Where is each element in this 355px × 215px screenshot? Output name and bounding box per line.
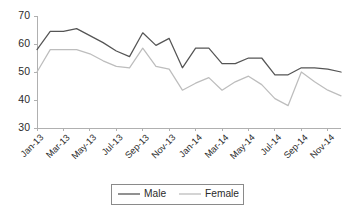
series-line-female (37, 48, 341, 105)
series-lines (37, 29, 341, 106)
y-tick-label: 70 (18, 9, 30, 21)
y-tick-label: 60 (18, 37, 30, 49)
y-tick-label: 40 (18, 93, 30, 105)
y-tick-label: 50 (18, 65, 30, 77)
x-tick-label: May-13 (70, 132, 99, 161)
x-tick-label: Sep-14 (282, 132, 310, 160)
y-tick-label: 30 (18, 121, 30, 133)
x-tick-labels: Jan-13Mar-13May-13Jul-13Sep-13Nov-13Jan-… (18, 132, 336, 161)
x-tick-label: Sep-13 (123, 132, 151, 160)
x-tick-label: Mar-13 (44, 132, 72, 160)
x-axis-group: Jan-13Mar-13May-13Jul-13Sep-13Nov-13Jan-… (18, 128, 341, 161)
legend-label-female: Female (205, 188, 239, 199)
y-axis-group: 3040506070 (18, 9, 37, 133)
x-tick-label: Jan-14 (177, 132, 204, 159)
x-tick-label: Jul-14 (259, 132, 284, 157)
legend-label-male: Male (144, 188, 166, 199)
chart-legend: Male Female (111, 184, 243, 204)
x-tick-label: Jan-13 (18, 132, 45, 159)
y-tick-labels: 3040506070 (18, 9, 30, 133)
chart-canvas: 3040506070 Jan-13Mar-13May-13Jul-13Sep-1… (0, 0, 355, 215)
x-tick-label: May-14 (228, 132, 257, 161)
x-tick-label: Nov-13 (150, 132, 178, 160)
x-tick-label: Nov-14 (308, 132, 336, 160)
line-chart: 3040506070 Jan-13Mar-13May-13Jul-13Sep-1… (0, 0, 355, 215)
x-tick-label: Jul-13 (100, 132, 125, 157)
x-tick-label: Mar-14 (203, 132, 231, 160)
